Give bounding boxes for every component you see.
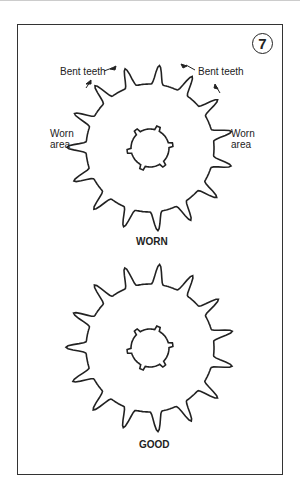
worn-sprocket-icon — [67, 66, 231, 231]
bent-teeth-left-label: Bent teeth — [60, 66, 106, 77]
good-sprocket-icon — [66, 265, 232, 432]
bent-teeth-right-label: Bent teeth — [198, 66, 244, 77]
good-caption: GOOD — [139, 439, 170, 450]
worn-caption: WORN — [136, 236, 168, 247]
worn-area-left-label: Worn area — [50, 128, 74, 150]
sprocket-drawings — [0, 0, 300, 498]
worn-area-right-label: Worn area — [231, 128, 255, 150]
